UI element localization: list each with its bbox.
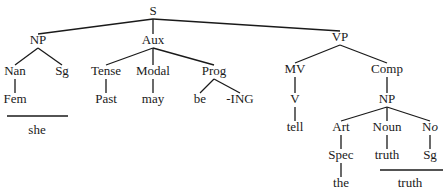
- node-tense: Tense: [91, 63, 121, 78]
- syntax-tree-diagram: SNPAuxVPNanSgTenseModalProgMVCompFemPast…: [0, 0, 444, 194]
- tree-labels: SNPAuxVPNanSgTenseModalProgMVCompFemPast…: [3, 3, 438, 190]
- node-aux: Aux: [142, 32, 165, 47]
- node-mv: MV: [285, 61, 307, 76]
- node-she: she: [28, 122, 46, 137]
- node-noun: Noun: [373, 119, 402, 134]
- node-spec: Spec: [328, 147, 354, 162]
- node-np1: NP: [30, 32, 47, 47]
- edge-s-vp: [153, 19, 340, 31]
- node-may: may: [142, 91, 165, 106]
- node-np2: NP: [379, 91, 396, 106]
- node-truth1: truth: [375, 147, 400, 162]
- node-s: S: [149, 3, 156, 18]
- node-nan: Nan: [4, 63, 26, 78]
- node-prog: Prog: [202, 63, 227, 78]
- node-past: Past: [95, 91, 117, 106]
- node-v: V: [290, 91, 300, 106]
- edge-s-np1: [38, 19, 153, 34]
- node-comp: Comp: [371, 61, 403, 76]
- node-the: the: [333, 175, 349, 190]
- node-ing: -ING: [226, 91, 253, 106]
- node-art: Art: [332, 119, 350, 134]
- node-vp: VP: [332, 29, 349, 44]
- tree-edges: [15, 19, 430, 177]
- node-no: No: [422, 119, 438, 134]
- node-sg1: Sg: [55, 63, 69, 78]
- node-truth2: truth: [398, 175, 423, 190]
- node-modal: Modal: [136, 63, 170, 78]
- node-be: be: [194, 91, 207, 106]
- node-fem: Fem: [3, 91, 26, 106]
- node-sg2: Sg: [423, 147, 437, 162]
- node-tell: tell: [287, 119, 304, 134]
